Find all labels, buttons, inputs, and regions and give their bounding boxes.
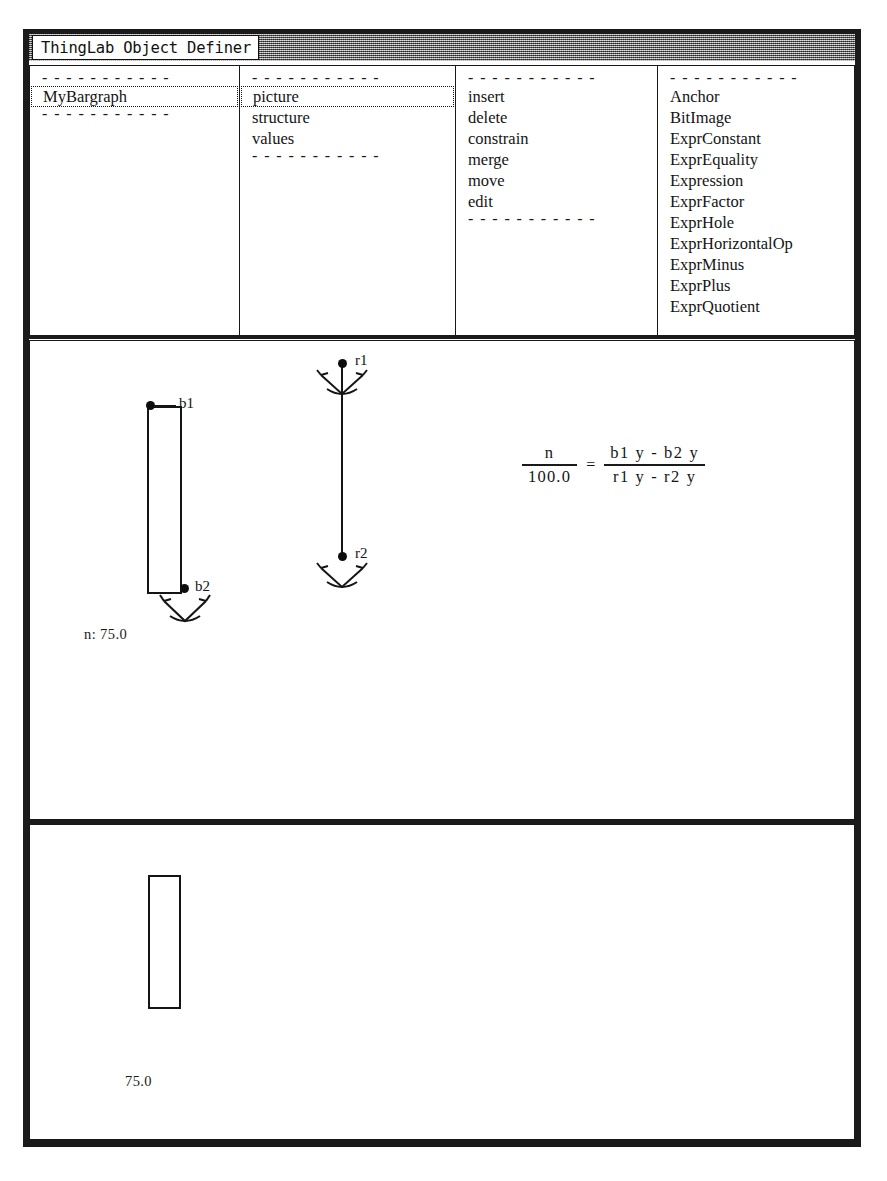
list-item-merge[interactable]: merge [456,149,657,170]
point-r1-handle[interactable] [338,359,347,368]
window-border-bottom [23,1140,861,1147]
window-border-right [855,29,861,1147]
equation-left-denominator: 100.0 [522,466,577,488]
thinglab-object-definer-window: ThingLab Object Definer - - - - - - - - … [23,29,861,1147]
list-pane-row: - - - - - - - - - - - MyBargraph - - - -… [29,65,855,337]
instance-list-pane[interactable]: - - - - - - - - - - - MyBargraph - - - -… [29,65,239,337]
window-title: ThingLab Object Definer [41,39,251,57]
preview-value-label: 75.0 [125,1073,152,1090]
list-item-anchor[interactable]: Anchor [658,86,854,107]
list-separator-top: - - - - - - - - - - - [658,71,854,86]
equation-left-numerator: n [539,442,560,464]
point-r2-label: r2 [355,545,368,562]
window-title-box: ThingLab Object Definer [32,35,259,60]
point-b2-handle[interactable] [180,584,189,593]
list-item-exprfactor[interactable]: ExprFactor [658,191,854,212]
anchor-icon-r1 [316,369,368,405]
list-item-bitimage[interactable]: BitImage [658,107,854,128]
point-b1-label: b1 [179,395,194,412]
constraint-equation[interactable]: n 100.0 = b1 y - b2 y r1 y - r2 y [522,442,705,488]
list-item-exprplus[interactable]: ExprPlus [658,275,854,296]
list-separator-top: - - - - - - - - - - - [456,71,657,86]
instance-preview-pane[interactable]: 75.0 [29,824,855,1140]
list-item-exprconstant[interactable]: ExprConstant [658,128,854,149]
list-item-structure[interactable]: structure [240,107,455,128]
list-item-exprminus[interactable]: ExprMinus [658,254,854,275]
list-separator-top: - - - - - - - - - - - [240,71,455,86]
list-item-exprhole[interactable]: ExprHole [658,212,854,233]
class-list-pane[interactable]: - - - - - - - - - - - Anchor BitImage Ex… [657,65,855,337]
anchor-icon-r2 [316,562,368,598]
list-item-delete[interactable]: delete [456,107,657,128]
list-item-expression[interactable]: Expression [658,170,854,191]
equation-right-fraction: b1 y - b2 y r1 y - r2 y [604,442,705,488]
list-item-insert[interactable]: insert [456,86,657,107]
point-r1-label: r1 [355,352,368,369]
list-item-exprhorizontalop[interactable]: ExprHorizontalOp [658,233,854,254]
action-list-pane[interactable]: - - - - - - - - - - - insert delete cons… [455,65,657,337]
list-item-picture[interactable]: picture [241,86,454,107]
window-title-bar[interactable]: ThingLab Object Definer [29,34,855,61]
equation-left-fraction: n 100.0 [522,442,577,488]
picture-editing-pane[interactable]: b1 b2 n: 75.0 r1 r2 [29,340,855,820]
list-separator-top: - - - - - - - - - - - [30,71,239,86]
equation-relation-sign: = [577,456,604,474]
aspect-list-pane[interactable]: - - - - - - - - - - - picture structure … [239,65,455,337]
list-item-values[interactable]: values [240,128,455,149]
list-item-constrain[interactable]: constrain [456,128,657,149]
list-item-exprequality[interactable]: ExprEquality [658,149,854,170]
bargraph-bar-shape[interactable] [147,406,182,594]
equation-right-denominator: r1 y - r2 y [607,466,703,488]
anchor-icon-b2 [158,593,212,633]
pane-divider-upper[interactable] [29,335,855,339]
point-b1-leader-line [154,405,176,407]
list-separator-bottom: - - - - - - - - - - - [240,149,455,164]
preview-bar-shape[interactable] [148,875,181,1009]
point-r2-handle[interactable] [338,552,347,561]
list-item-move[interactable]: move [456,170,657,191]
list-separator-bottom: - - - - - - - - - - - [30,107,239,122]
list-item-mybargraph[interactable]: MyBargraph [31,86,238,107]
list-item-edit[interactable]: edit [456,191,657,212]
bargraph-value-label: n: 75.0 [84,626,127,643]
list-separator-bottom: - - - - - - - - - - - [456,212,657,227]
list-item-exprquotient[interactable]: ExprQuotient [658,296,854,317]
equation-right-numerator: b1 y - b2 y [604,442,705,464]
